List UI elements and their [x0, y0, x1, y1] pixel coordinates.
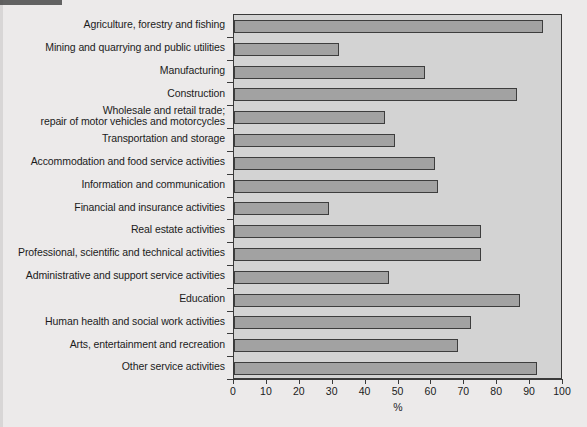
bar — [234, 66, 425, 79]
bar — [234, 362, 537, 375]
bar — [234, 20, 543, 33]
category-label: Wholesale and retail trade; repair of mo… — [41, 105, 226, 128]
bar — [234, 88, 517, 101]
x-axis-tick-label: 100 — [547, 385, 577, 397]
y-axis-tick — [227, 105, 233, 106]
y-axis-tick — [227, 82, 233, 83]
category-label: Other service activities — [122, 361, 225, 373]
category-label: Agriculture, forestry and fishing — [84, 19, 225, 31]
bar — [234, 339, 458, 352]
category-label: Administrative and support service activ… — [26, 270, 225, 282]
x-axis-tick-label: 10 — [251, 385, 281, 397]
plot-area — [233, 14, 562, 379]
y-axis-tick — [227, 151, 233, 152]
x-axis-tick — [233, 379, 234, 384]
bar — [234, 271, 389, 284]
y-axis-tick — [227, 219, 233, 220]
category-label: Construction — [167, 88, 225, 100]
category-label: Real estate activities — [131, 224, 225, 236]
y-axis-tick — [227, 128, 233, 129]
y-axis-tick — [227, 379, 233, 380]
y-axis-tick — [227, 174, 233, 175]
x-axis-tick-label: 30 — [317, 385, 347, 397]
category-label: Transportation and storage — [102, 133, 225, 145]
bar — [234, 111, 385, 124]
x-axis-tick — [562, 379, 563, 384]
x-axis-tick — [529, 379, 530, 384]
y-axis-tick — [227, 197, 233, 198]
x-axis-tick-label: 60 — [415, 385, 445, 397]
x-axis-tick-label: 50 — [383, 385, 413, 397]
y-axis-tick — [227, 37, 233, 38]
bar — [234, 248, 481, 261]
x-axis-tick — [496, 379, 497, 384]
x-axis-tick — [430, 379, 431, 384]
category-label: Human health and social work activities — [45, 316, 225, 328]
x-axis-title: % — [233, 401, 563, 413]
bar-chart: Agriculture, forestry and fishingMining … — [0, 0, 587, 427]
x-axis-tick-label: 70 — [448, 385, 478, 397]
category-label: Information and communication — [81, 179, 225, 191]
bar — [234, 202, 329, 215]
y-axis-tick — [227, 288, 233, 289]
x-axis-tick — [299, 379, 300, 384]
x-axis-tick — [365, 379, 366, 384]
y-axis-tick — [227, 333, 233, 334]
x-axis-tick — [266, 379, 267, 384]
scan-corner-artifact — [0, 0, 62, 5]
x-axis-tick-label: 20 — [284, 385, 314, 397]
category-label: Education — [179, 293, 225, 305]
x-axis-tick — [463, 379, 464, 384]
category-axis: Agriculture, forestry and fishingMining … — [0, 14, 231, 379]
x-axis-tick-label: 90 — [514, 385, 544, 397]
y-axis-line — [233, 14, 234, 380]
category-label: Financial and insurance activities — [74, 202, 225, 214]
y-axis-tick — [227, 265, 233, 266]
y-axis-tick — [227, 60, 233, 61]
bar — [234, 43, 339, 56]
category-label: Manufacturing — [160, 65, 225, 77]
x-axis: % 0102030405060708090100 — [233, 379, 563, 425]
category-label: Mining and quarrying and public utilitie… — [45, 42, 225, 54]
bar — [234, 225, 481, 238]
bar — [234, 180, 438, 193]
x-axis-tick — [332, 379, 333, 384]
bar — [234, 157, 435, 170]
bar — [234, 294, 520, 307]
category-label: Professional, scientific and technical a… — [18, 247, 225, 259]
category-label: Accommodation and food service activitie… — [31, 156, 225, 168]
bar — [234, 134, 395, 147]
x-axis-tick — [398, 379, 399, 384]
y-axis-tick — [227, 242, 233, 243]
x-axis-tick-label: 80 — [481, 385, 511, 397]
y-axis-tick — [227, 311, 233, 312]
x-axis-tick-label: 40 — [350, 385, 380, 397]
category-label: Arts, entertainment and recreation — [70, 339, 225, 351]
y-axis-tick — [227, 356, 233, 357]
x-axis-tick-label: 0 — [218, 385, 248, 397]
bar — [234, 316, 471, 329]
